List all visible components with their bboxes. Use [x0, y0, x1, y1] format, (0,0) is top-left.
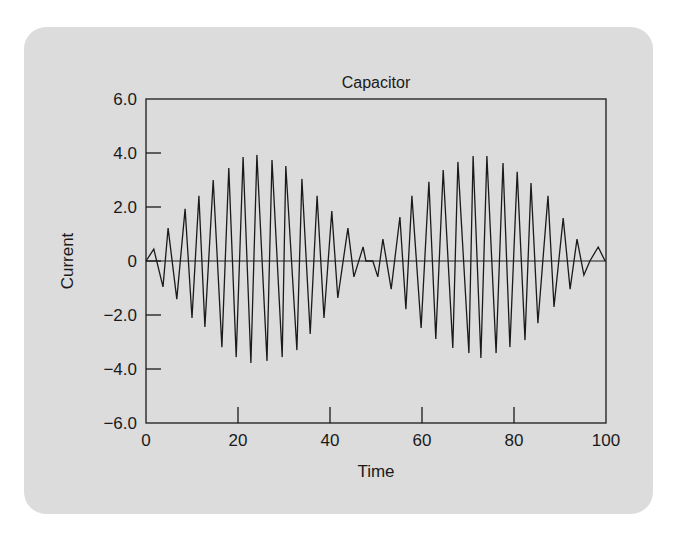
x-tick-label: 80 [505, 431, 524, 450]
y-tick-label: 2.0 [113, 198, 137, 217]
capacitor-chart: Capacitor 6.04.02.00−2.0−4.0−6.0 0204060… [0, 0, 685, 534]
series-line-current [146, 155, 605, 363]
x-tick-label: 100 [592, 431, 620, 450]
x-tick-label: 0 [141, 431, 150, 450]
x-tick-label: 40 [321, 431, 340, 450]
y-tick-label: 6.0 [113, 90, 137, 109]
y-tick-label: −6.0 [103, 414, 137, 433]
chart-title: Capacitor [342, 74, 411, 91]
x-axis-label: Time [357, 462, 394, 481]
y-tick-label: −2.0 [103, 306, 137, 325]
y-tick-label: −4.0 [103, 360, 137, 379]
y-tick-label: 4.0 [113, 144, 137, 163]
y-axis-label: Current [58, 232, 77, 289]
x-tick-label: 60 [413, 431, 432, 450]
x-tick-label: 20 [229, 431, 248, 450]
y-tick-label: 0 [128, 252, 137, 271]
